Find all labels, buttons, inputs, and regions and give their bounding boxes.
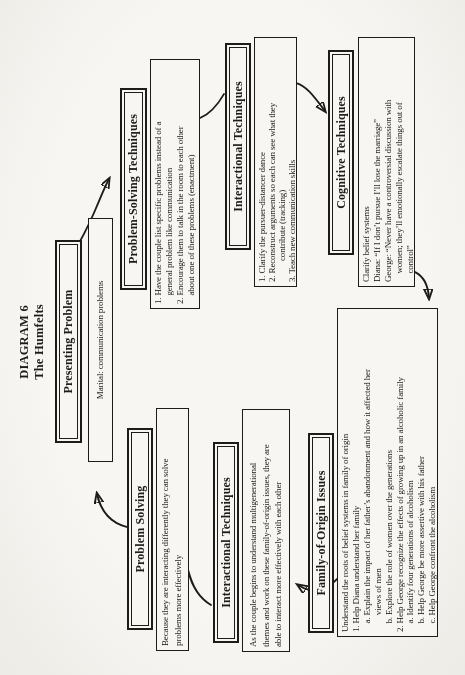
node-presenting-problem-label: Presenting Problem [61,290,76,394]
node-interactional-techniques-2-label: Interactional Techniques [219,477,234,608]
node-problem-solving-2-label: Problem Solving [133,485,148,572]
node-interactional-techniques-1-detail: 1. Clarify the pursuer-distancer dance2.… [254,37,297,287]
node-interactional-techniques-1-label: Interactional Techniques [231,81,246,212]
node-cognitive-techniques-title: Cognitive Techniques [328,50,354,255]
node-family-of-origin-title: Family-of-Origin Issues [308,433,334,633]
node-problem-solving-2-detail: Because they are interacting differently… [156,408,189,651]
node-interactional-techniques-1-title: Interactional Techniques [225,43,251,250]
diagram-heading: DIAGRAM 6 The Humfelts [17,262,46,422]
node-problem-solving-techniques-title: Problem-Solving Techniques [120,88,147,290]
node-problem-solving-techniques-label: Problem-Solving Techniques [126,114,141,264]
connector-interactional-2-to-problem-solving-2 [188,570,211,605]
diagram-number: DIAGRAM 6 [17,262,32,422]
node-problem-solving-techniques-detail: 1. Have the couple list specific problem… [150,59,200,309]
node-interactional-techniques-2-title: Interactional Techniques [213,442,239,643]
arrow-problem-solving-2-to-presenting [97,494,127,527]
node-marital-problems-box: Marital: communication problems [88,218,113,462]
node-family-of-origin-label: Family-of-Origin Issues [314,470,329,595]
diagram-canvas: DIAGRAM 6 The Humfelts Presenting Proble… [0,0,465,675]
scanned-page-background: DIAGRAM 6 The Humfelts Presenting Proble… [0,0,465,675]
node-presenting-problem-title: Presenting Problem [55,240,82,443]
arrow-interactional-to-cognitive [296,83,325,111]
node-cognitive-techniques-label: Cognitive Techniques [334,96,349,209]
arrow-cognitive-to-family-of-origin [415,272,429,298]
node-interactional-techniques-2-detail: As the couple begins to understand multi… [242,409,290,652]
node-problem-solving-2-title: Problem Solving [127,428,153,630]
diagram-subtitle: The Humfelts [32,262,47,422]
node-family-of-origin-detail: Understand the roots of belief systems i… [337,308,438,637]
connector-problem-solving-techniques-to-interactional [200,94,224,118]
node-cognitive-techniques-detail: Clarify belief systemsDiana: “If I don’t… [358,37,415,287]
